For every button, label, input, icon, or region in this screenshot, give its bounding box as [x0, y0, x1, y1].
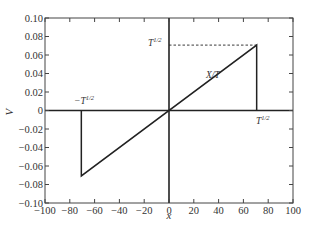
x-tick-label: 20: [189, 205, 200, 216]
x-tick-label: 60: [238, 205, 249, 216]
y-tick-label: −0.10: [19, 198, 43, 209]
x-tick-label: 80: [263, 205, 274, 216]
neg-t-half-sup: 1/2: [86, 94, 95, 101]
t-half-top-label: T1/2: [148, 36, 162, 48]
x-axis-title: x: [166, 209, 172, 221]
chart: −100−80−60−40−200204060801000.100.080.06…: [0, 0, 310, 235]
x-tick-label: −80: [62, 205, 78, 216]
line-label: X/T: [205, 70, 220, 80]
x-tick-label: 40: [213, 205, 224, 216]
y-axis-title: V: [3, 107, 15, 115]
neg-t-half-base: −T: [74, 96, 86, 106]
y-tick-label: 0.08: [25, 31, 43, 42]
x-tick-label: −40: [111, 205, 127, 216]
t-half-top-sup: 1/2: [153, 36, 162, 43]
y-tick-label: −0.02: [19, 124, 43, 135]
x-tick-label: −60: [86, 205, 102, 216]
axis-tick-labels: −100−80−60−40−200204060801000.100.080.06…: [19, 13, 301, 217]
y-tick-label: −0.04: [19, 142, 44, 153]
y-tick-label: −0.06: [19, 161, 43, 172]
neg-t-half-label: −T1/2: [74, 94, 95, 106]
plot-area: [45, 18, 293, 203]
t-half-right-sup: 1/2: [261, 114, 270, 121]
y-tick-label: −0.08: [19, 179, 43, 190]
y-tick-label: 0.04: [25, 68, 44, 79]
y-tick-label: 0.10: [25, 13, 43, 24]
y-tick-label: 0.06: [25, 50, 43, 61]
y-tick-label: 0: [38, 105, 43, 116]
x-tick-label: 100: [285, 205, 301, 216]
t-half-right-label: T1/2: [256, 114, 270, 126]
x-tick-label: −20: [136, 205, 152, 216]
y-tick-label: 0.02: [25, 87, 43, 98]
